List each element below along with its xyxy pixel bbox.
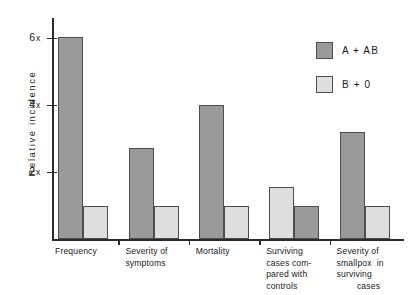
y-tick-label-2x: 2x <box>29 165 41 177</box>
x-category-label-line: surviving <box>337 269 403 281</box>
bar-group-3-a-ab <box>199 105 224 240</box>
x-category-label-line: Severity of <box>337 246 403 258</box>
legend-item-b-0: B + 0 <box>316 76 379 93</box>
legend-swatch-a-ab <box>316 42 333 59</box>
x-category-label-line: controls <box>266 281 332 293</box>
y-axis-line <box>52 18 54 240</box>
bar-group-4-a-ab <box>294 206 319 240</box>
x-category-label-line: cases <box>337 281 403 293</box>
bar-group-5-a-ab <box>340 132 365 240</box>
x-category-label-line: Mortality <box>196 246 262 258</box>
x-category-label-line: Frequency <box>55 246 121 258</box>
legend-label-a-ab: A + AB <box>342 45 379 56</box>
y-tick-2x: 2x <box>47 172 57 173</box>
legend: A + AB B + 0 <box>316 42 379 110</box>
y-tick-6x: 6x <box>47 38 57 39</box>
x-category-label-line: pared with <box>266 269 332 281</box>
x-category-label-line: Severity of <box>125 246 191 258</box>
x-category-label-4: Survivingcases com-pared withcontrols <box>266 246 332 292</box>
bar-chart: Relative incidence 2x4x6x FrequencySever… <box>0 0 418 295</box>
bar-group-1-b-0 <box>83 206 108 240</box>
legend-label-b-0: B + 0 <box>342 79 371 90</box>
x-category-label-2: Severity ofsymptoms <box>125 246 191 269</box>
bar-group-2-b-0 <box>154 206 179 240</box>
x-category-label-line: Surviving <box>266 246 332 258</box>
bar-group-3-b-0 <box>224 206 249 240</box>
x-category-label-line: smallpox in <box>337 258 403 270</box>
x-category-label-1: Frequency <box>55 246 121 258</box>
group-separator-4 <box>330 239 331 245</box>
y-axis-title: Relative incidence <box>26 44 37 204</box>
y-tick-4x: 4x <box>47 105 57 106</box>
x-category-label-3: Mortality <box>196 246 262 258</box>
y-tick-label-4x: 4x <box>29 98 41 110</box>
x-category-label-5: Severity ofsmallpox insurviving cases <box>337 246 403 292</box>
y-tick-label-6x: 6x <box>29 31 41 43</box>
group-separator-2 <box>189 239 190 245</box>
legend-swatch-b-0 <box>316 76 333 93</box>
legend-item-a-ab: A + AB <box>316 42 379 59</box>
x-axis-line <box>52 239 404 241</box>
bar-group-4-b-0 <box>269 187 294 239</box>
bar-group-5-b-0 <box>365 206 390 240</box>
x-category-label-line: cases com- <box>266 258 332 270</box>
bar-group-1-a-ab <box>58 37 83 239</box>
x-category-label-line: symptoms <box>125 258 191 270</box>
group-separator-3 <box>259 239 260 245</box>
group-separator-1 <box>118 239 119 245</box>
bar-group-2-a-ab <box>129 148 154 239</box>
